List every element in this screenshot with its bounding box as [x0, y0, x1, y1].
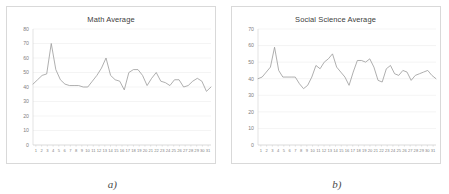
x-axis-tick-label: 24: [166, 148, 171, 153]
x-axis-tick-label: 9: [81, 148, 84, 153]
line-chart-social-science: 0102030405060701234567891011121314151617…: [232, 7, 442, 165]
line-chart-math: 0102030405060708012345678910111213141516…: [7, 7, 217, 165]
y-axis-tick-label: 10: [23, 127, 29, 133]
y-axis-tick-label: 80: [23, 26, 29, 32]
x-axis-tick-label: 3: [271, 148, 274, 153]
caption-b: b): [225, 178, 449, 190]
x-axis-tick-label: 30: [200, 148, 205, 153]
x-axis-tick-label: 1: [35, 148, 38, 153]
x-axis-tick-label: 31: [430, 148, 435, 153]
x-axis-tick-label: 7: [294, 148, 297, 153]
figure-two-line-charts: Math Average 010203040506070801234567891…: [0, 0, 449, 194]
x-axis-tick-label: 6: [63, 148, 66, 153]
x-axis-tick-label: 2: [40, 148, 43, 153]
x-axis-tick-label: 12: [321, 148, 326, 153]
chart-frame-social-science: Social Science Average 01020304050607012…: [231, 6, 441, 164]
x-axis-tick-label: 27: [183, 148, 188, 153]
x-axis-tick-label: 27: [407, 148, 412, 153]
y-axis-tick-label: 0: [251, 142, 254, 148]
x-axis-tick-label: 14: [333, 148, 338, 153]
x-axis-tick-label: 23: [160, 148, 165, 153]
x-axis-tick-label: 10: [310, 148, 315, 153]
x-axis-tick-label: 8: [299, 148, 302, 153]
x-axis-tick-label: 12: [97, 148, 102, 153]
x-axis-tick-label: 28: [189, 148, 194, 153]
x-axis-tick-label: 23: [384, 148, 389, 153]
y-axis-tick-label: 40: [23, 84, 29, 90]
x-axis-tick-label: 13: [102, 148, 107, 153]
x-axis-tick-label: 22: [154, 148, 159, 153]
x-axis-tick-label: 5: [58, 148, 61, 153]
x-axis-tick-label: 18: [131, 148, 136, 153]
x-axis-tick-label: 2: [265, 148, 268, 153]
chart-frame-math: Math Average 010203040506070801234567891…: [6, 6, 216, 164]
y-axis-tick-label: 50: [23, 69, 29, 75]
x-axis-tick-label: 8: [75, 148, 78, 153]
data-series-line: [258, 47, 436, 88]
x-axis-tick-label: 4: [276, 148, 279, 153]
x-axis-tick-label: 17: [125, 148, 130, 153]
x-axis-tick-label: 3: [46, 148, 49, 153]
x-axis-tick-label: 7: [69, 148, 72, 153]
x-axis-tick-label: 24: [390, 148, 395, 153]
x-axis-tick-label: 9: [305, 148, 308, 153]
x-axis-tick-label: 4: [52, 148, 55, 153]
x-axis-tick-label: 17: [350, 148, 355, 153]
y-axis-tick-label: 70: [248, 26, 254, 32]
data-series-line: [33, 44, 211, 92]
y-axis-tick-label: 10: [248, 125, 254, 131]
x-axis-tick-label: 21: [148, 148, 153, 153]
x-axis-tick-label: 31: [206, 148, 211, 153]
y-axis-tick-label: 60: [23, 55, 29, 61]
x-axis-tick-label: 25: [171, 148, 176, 153]
y-axis-tick-label: 20: [248, 109, 254, 115]
x-axis-tick-label: 15: [114, 148, 119, 153]
x-axis-tick-label: 29: [194, 148, 199, 153]
x-axis-tick-label: 1: [259, 148, 262, 153]
panel-b: Social Science Average 01020304050607012…: [225, 0, 449, 194]
y-axis-tick-label: 70: [23, 40, 29, 46]
y-axis-tick-label: 30: [23, 98, 29, 104]
x-axis-tick-label: 26: [402, 148, 407, 153]
x-axis-tick-label: 6: [288, 148, 291, 153]
x-axis-tick-label: 30: [425, 148, 430, 153]
y-axis-tick-label: 30: [248, 92, 254, 98]
y-axis-tick-label: 40: [248, 76, 254, 82]
x-axis-tick-label: 25: [396, 148, 401, 153]
x-axis-tick-label: 29: [419, 148, 424, 153]
x-axis-tick-label: 20: [143, 148, 148, 153]
x-axis-tick-label: 5: [282, 148, 285, 153]
x-axis-tick-label: 11: [316, 148, 321, 153]
x-axis-tick-label: 22: [379, 148, 384, 153]
x-axis-tick-label: 21: [373, 148, 378, 153]
x-axis-tick-label: 16: [120, 148, 125, 153]
x-axis-tick-label: 18: [356, 148, 361, 153]
y-axis-tick-label: 20: [23, 113, 29, 119]
x-axis-tick-label: 11: [91, 148, 96, 153]
x-axis-tick-label: 19: [361, 148, 366, 153]
x-axis-tick-label: 16: [344, 148, 349, 153]
panel-a: Math Average 010203040506070801234567891…: [0, 0, 225, 194]
x-axis-tick-label: 28: [413, 148, 418, 153]
caption-a: a): [0, 178, 225, 190]
x-axis-tick-label: 13: [327, 148, 332, 153]
x-axis-tick-label: 20: [367, 148, 372, 153]
y-axis-tick-label: 50: [248, 59, 254, 65]
x-axis-tick-label: 15: [338, 148, 343, 153]
x-axis-tick-label: 19: [137, 148, 142, 153]
x-axis-tick-label: 14: [108, 148, 113, 153]
x-axis-tick-label: 10: [85, 148, 90, 153]
y-axis-tick-label: 0: [26, 142, 29, 148]
y-axis-tick-label: 60: [248, 42, 254, 48]
x-axis-tick-label: 26: [177, 148, 182, 153]
